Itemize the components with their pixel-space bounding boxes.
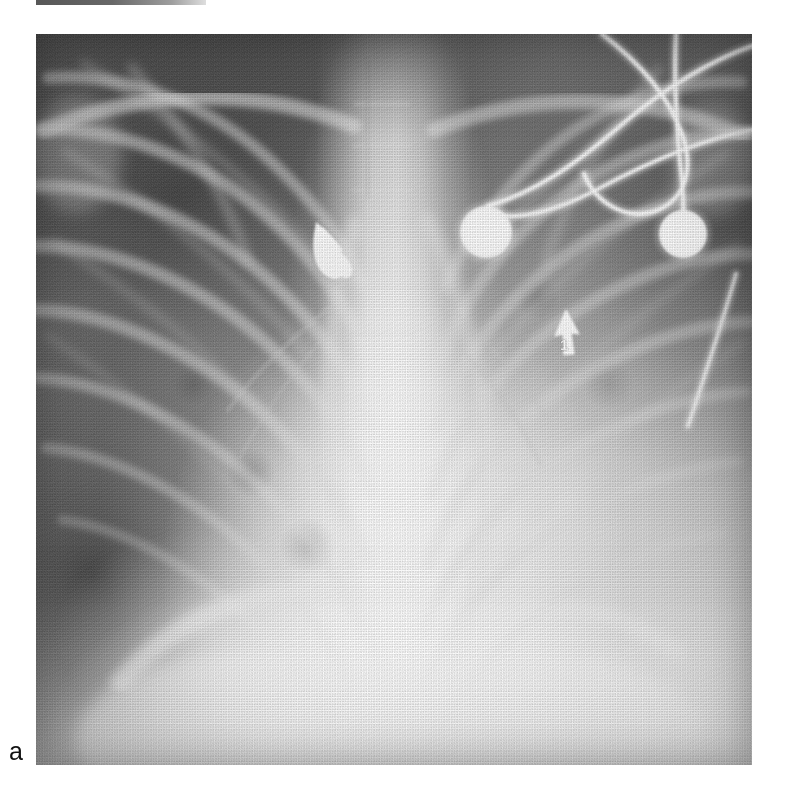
previous-figure-sliver bbox=[36, 0, 206, 5]
chest-radiograph-image[interactable]: 1 bbox=[36, 34, 752, 765]
annotation-number-1: 1 bbox=[560, 337, 568, 352]
annotation-layer bbox=[36, 34, 752, 765]
figure-page: 1 a bbox=[0, 0, 785, 786]
figure-label: a bbox=[9, 739, 23, 764]
